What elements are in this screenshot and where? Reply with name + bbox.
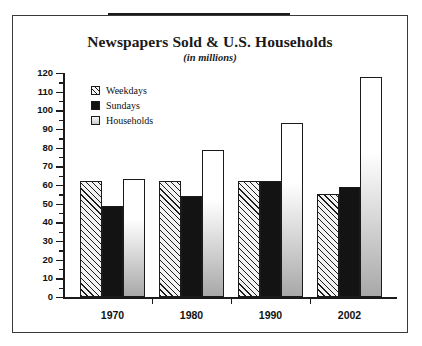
- y-minor-tick: [59, 176, 63, 177]
- bar-weekdays-1970: [80, 181, 102, 297]
- y-tick-label-80: 80: [42, 143, 53, 153]
- legend-swatch-weekdays-icon: [91, 86, 100, 95]
- x-tick: [310, 297, 311, 304]
- bar-households-1980: [202, 150, 224, 297]
- y-minor-tick: [59, 250, 63, 251]
- y-minor-tick: [59, 269, 63, 270]
- x-tick-label-1970: 1970: [101, 309, 124, 321]
- y-tick-70: [56, 166, 63, 167]
- y-tick-label-0: 0: [48, 292, 53, 302]
- legend-item-weekdays: Weekdays: [91, 83, 201, 97]
- x-axis-line: [63, 297, 397, 299]
- y-tick-label-100: 100: [37, 106, 53, 116]
- y-tick-label-20: 20: [42, 255, 53, 265]
- legend-item-households: Households: [91, 113, 201, 127]
- y-tick-60: [56, 185, 63, 186]
- legend-item-sundays: Sundays: [91, 98, 201, 112]
- x-tick: [152, 297, 153, 304]
- y-tick-120: [56, 73, 63, 74]
- y-minor-tick: [59, 138, 63, 139]
- legend-label-weekdays: Weekdays: [106, 85, 147, 96]
- y-tick-90: [56, 129, 63, 130]
- y-tick-label-110: 110: [38, 87, 53, 97]
- chart-figure-frame: Newspapers Sold & U.S. Households (in mi…: [12, 15, 408, 333]
- legend-label-households: Households: [106, 115, 153, 126]
- chart-title: Newspapers Sold & U.S. Households: [13, 33, 407, 51]
- y-tick-label-70: 70: [42, 162, 53, 172]
- bar-weekdays-1990: [238, 181, 260, 297]
- bar-households-1970: [123, 179, 145, 297]
- y-minor-tick: [59, 213, 63, 214]
- y-tick-50: [56, 204, 63, 205]
- y-tick-10: [56, 278, 63, 279]
- legend-label-sundays: Sundays: [106, 100, 140, 111]
- x-tick-label-1990: 1990: [259, 309, 282, 321]
- y-tick-110: [56, 92, 63, 93]
- bar-sundays-1980: [181, 196, 203, 297]
- x-tick-label-2002: 2002: [338, 309, 361, 321]
- y-tick-0: [56, 297, 63, 298]
- chart-legend: Weekdays Sundays Households: [91, 83, 201, 128]
- x-tick: [231, 297, 232, 304]
- bar-sundays-2002: [339, 187, 361, 297]
- y-minor-tick: [59, 232, 63, 233]
- y-tick-label-90: 90: [42, 124, 53, 134]
- y-tick-label-50: 50: [42, 199, 53, 209]
- y-tick-label-120: 120: [37, 68, 53, 78]
- chart-subtitle: (in millions): [13, 52, 407, 63]
- bar-households-1990: [281, 123, 303, 297]
- y-tick-40: [56, 222, 63, 223]
- y-tick-20: [56, 260, 63, 261]
- y-tick-label-60: 60: [42, 180, 53, 190]
- bar-weekdays-2002: [317, 194, 339, 297]
- y-minor-tick: [59, 157, 63, 158]
- bar-sundays-1990: [260, 181, 282, 297]
- y-tick-30: [56, 241, 63, 242]
- x-tick-label-1980: 1980: [180, 309, 203, 321]
- y-tick-80: [56, 148, 63, 149]
- bar-households-2002: [360, 77, 382, 297]
- y-minor-tick: [59, 82, 63, 83]
- y-minor-tick: [59, 194, 63, 195]
- bar-sundays-1970: [102, 206, 124, 297]
- y-tick-label-30: 30: [42, 236, 53, 246]
- y-minor-tick: [59, 288, 63, 289]
- y-tick-label-10: 10: [42, 274, 53, 284]
- y-tick-label-40: 40: [42, 218, 53, 228]
- y-axis-line: [63, 73, 65, 297]
- y-minor-tick: [59, 101, 63, 102]
- y-tick-100: [56, 110, 63, 111]
- legend-swatch-sundays-icon: [91, 101, 100, 110]
- legend-swatch-households-icon: [91, 116, 100, 125]
- y-minor-tick: [59, 120, 63, 121]
- bar-weekdays-1980: [159, 181, 181, 297]
